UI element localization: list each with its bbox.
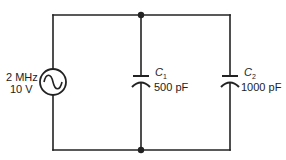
c2-subscript: 2: [252, 73, 256, 80]
c2-name: C: [244, 66, 252, 78]
junction-node-bottom: [138, 147, 144, 153]
c1-name: C: [155, 66, 163, 78]
c1-value-label: 500 pF: [154, 81, 188, 93]
c2-value-label: 1000 pF: [241, 81, 281, 93]
c1-subscript: 1: [163, 73, 167, 80]
ac-source-icon: [40, 69, 66, 95]
junction-node-top: [138, 12, 144, 18]
source-frequency-label: 2 MHz: [6, 71, 38, 83]
source-voltage-label: 10 V: [10, 83, 33, 95]
